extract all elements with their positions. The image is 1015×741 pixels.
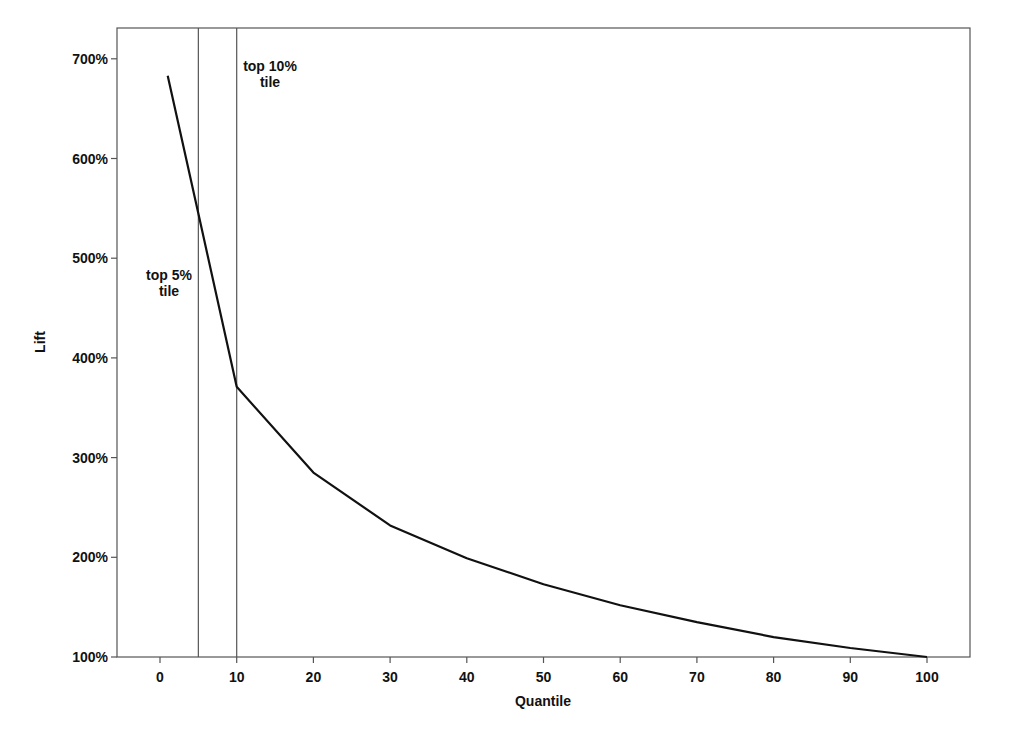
- y-tick-label: 300%: [72, 450, 108, 466]
- x-tick-label: 60: [612, 669, 628, 685]
- x-tick-label: 40: [459, 669, 475, 685]
- x-tick-label: 10: [229, 669, 245, 685]
- annotation-top-10-line2: tile: [260, 74, 280, 90]
- x-tick-label: 90: [843, 669, 859, 685]
- y-tick-label: 200%: [72, 549, 108, 565]
- annotation-top-5-line1: top 5%: [146, 267, 192, 283]
- lift-chart: 100%200%300%400%500%600%700% 01020304050…: [0, 0, 1015, 741]
- annotation-top-10-line1: top 10%: [243, 58, 297, 74]
- annotation-top-5-line2: tile: [159, 283, 179, 299]
- x-axis-title: Quantile: [515, 693, 571, 709]
- plot-frame: [117, 28, 970, 657]
- y-tick-label: 100%: [72, 649, 108, 665]
- x-tick-label: 0: [156, 669, 164, 685]
- y-axis: 100%200%300%400%500%600%700%: [72, 51, 117, 665]
- x-tick-label: 30: [382, 669, 398, 685]
- y-tick-label: 600%: [72, 151, 108, 167]
- x-tick-label: 100: [915, 669, 939, 685]
- x-tick-label: 50: [536, 669, 552, 685]
- x-tick-label: 70: [689, 669, 705, 685]
- x-tick-label: 80: [766, 669, 782, 685]
- y-tick-label: 700%: [72, 51, 108, 67]
- y-tick-label: 500%: [72, 250, 108, 266]
- x-tick-label: 20: [306, 669, 322, 685]
- lift-curve: [168, 76, 927, 657]
- x-axis: 0102030405060708090100: [156, 657, 939, 685]
- reference-lines: [198, 28, 236, 657]
- y-axis-title: Lift: [32, 331, 48, 353]
- y-tick-label: 400%: [72, 350, 108, 366]
